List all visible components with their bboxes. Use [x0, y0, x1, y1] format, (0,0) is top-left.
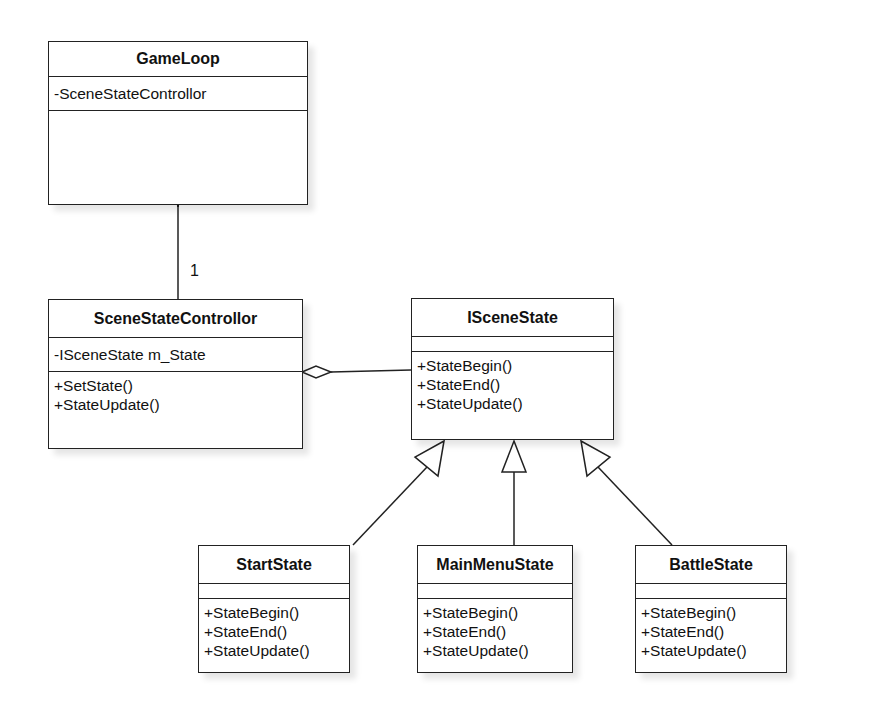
- operation: +StateUpdate(): [423, 641, 567, 660]
- operation: +StateUpdate(): [417, 394, 608, 413]
- hollow-diamond-icon: [302, 366, 331, 378]
- operation: +StateUpdate(): [54, 395, 297, 414]
- class-operations: +StateBegin() +StateEnd() +StateUpdate(): [636, 599, 786, 664]
- attribute: -ISceneState m_State: [54, 346, 206, 364]
- class-attributes: [412, 337, 613, 352]
- operation: +StateBegin(): [417, 356, 608, 375]
- operation: +StateEnd(): [204, 622, 344, 641]
- operation: +StateBegin(): [641, 603, 781, 622]
- class-name: GameLoop: [49, 42, 307, 77]
- operation: +StateEnd(): [423, 622, 567, 641]
- operation: +SetState(): [54, 376, 297, 395]
- class-name: ISceneState: [412, 299, 613, 337]
- class-name: BattleState: [636, 546, 786, 584]
- class-battlestate[interactable]: BattleState +StateBegin() +StateEnd() +S…: [635, 545, 787, 673]
- hollow-triangle-icon: [581, 441, 610, 476]
- class-operations: +StateBegin() +StateEnd() +StateUpdate(): [418, 599, 572, 664]
- generalization-line-battle: [598, 467, 672, 545]
- class-operations: +StateBegin() +StateEnd() +StateUpdate(): [199, 599, 349, 664]
- operation: +StateUpdate(): [204, 641, 344, 660]
- attribute: -SceneStateControllor: [54, 85, 207, 103]
- class-attributes: [199, 584, 349, 599]
- class-scenestatecontrollor[interactable]: SceneStateControllor -ISceneState m_Stat…: [48, 299, 303, 449]
- class-operations: +StateBegin() +StateEnd() +StateUpdate(): [412, 352, 613, 417]
- hollow-triangle-icon: [415, 441, 444, 476]
- class-startstate[interactable]: StartState +StateBegin() +StateEnd() +St…: [198, 545, 350, 673]
- class-attributes: -SceneStateControllor: [49, 77, 307, 111]
- operation: +StateUpdate(): [641, 641, 781, 660]
- class-operations: +SetState() +StateUpdate(): [49, 372, 302, 418]
- aggregation-line: [331, 370, 411, 372]
- multiplicity-label: 1: [190, 262, 199, 280]
- class-iscenestate[interactable]: ISceneState +StateBegin() +StateEnd() +S…: [411, 298, 614, 440]
- generalization-line-start: [353, 467, 427, 545]
- class-name: StartState: [199, 546, 349, 584]
- operation: +StateEnd(): [417, 375, 608, 394]
- class-gameloop[interactable]: GameLoop -SceneStateControllor: [48, 41, 308, 205]
- operation: +StateEnd(): [641, 622, 781, 641]
- class-attributes: [636, 584, 786, 599]
- class-name: MainMenuState: [418, 546, 572, 584]
- class-operations: [49, 111, 307, 119]
- class-attributes: [418, 584, 572, 599]
- operation: +StateBegin(): [204, 603, 344, 622]
- class-name: SceneStateControllor: [49, 300, 302, 338]
- class-attributes: -ISceneState m_State: [49, 338, 302, 372]
- operation: +StateBegin(): [423, 603, 567, 622]
- class-mainmenustate[interactable]: MainMenuState +StateBegin() +StateEnd() …: [417, 545, 573, 673]
- hollow-triangle-icon: [502, 441, 526, 472]
